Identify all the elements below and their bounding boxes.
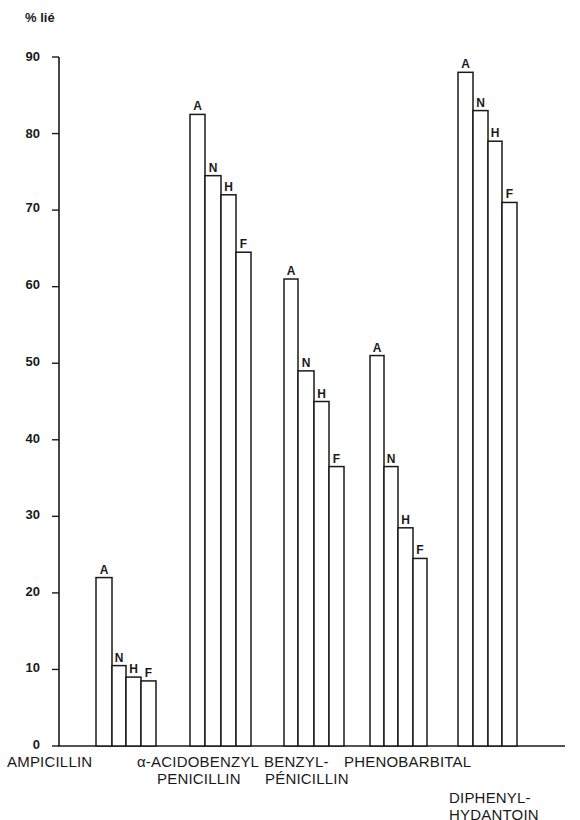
category-label-acidobenzylpenicillin-line1: α-ACIDOBENZYL bbox=[137, 753, 259, 770]
bar-label: A bbox=[287, 264, 296, 278]
bar-label: A bbox=[100, 563, 109, 577]
bar bbox=[314, 402, 329, 747]
bar-label: F bbox=[506, 187, 513, 201]
bar-label: N bbox=[387, 452, 396, 466]
bar-label: A bbox=[193, 99, 202, 113]
bar-label: H bbox=[317, 387, 326, 401]
bar-label: F bbox=[416, 543, 423, 557]
bar bbox=[96, 578, 112, 746]
bar-group: ANHF bbox=[458, 57, 517, 746]
bar-label: N bbox=[302, 356, 311, 370]
category-label-ampicillin: AMPICILLIN bbox=[7, 753, 92, 770]
bar bbox=[488, 141, 502, 746]
category-label-phenobarbital: PHENOBARBITAL bbox=[344, 753, 471, 770]
bar bbox=[458, 72, 473, 746]
bar-group: ANHF bbox=[190, 99, 251, 746]
bar-label: N bbox=[115, 651, 124, 665]
category-label-acidobenzylpenicillin-line2: PENICILLIN bbox=[157, 770, 241, 787]
category-label-benzylpenicillin-line2: PÉNICILLIN bbox=[265, 770, 349, 787]
bar bbox=[329, 467, 344, 746]
category-label-diphenylhydantoin-line1: DIPHENYL- bbox=[449, 789, 531, 806]
bar bbox=[190, 114, 205, 746]
bar bbox=[112, 666, 126, 746]
category-label-diphenylhydantoin-line2: HYDANTOIN bbox=[449, 806, 539, 820]
bar-label: A bbox=[461, 57, 470, 71]
bar-group: ANHF bbox=[370, 341, 427, 746]
bar bbox=[298, 371, 314, 746]
bar-label: A bbox=[373, 341, 382, 355]
bar-group: ANHF bbox=[284, 264, 344, 746]
bar-label: H bbox=[129, 662, 138, 676]
bar bbox=[126, 677, 141, 746]
category-label-benzylpenicillin-line1: BENZYL- bbox=[264, 753, 329, 770]
bar-label: N bbox=[476, 96, 485, 110]
bar bbox=[413, 558, 427, 746]
bar-group: ANHF bbox=[96, 563, 156, 746]
bar bbox=[473, 111, 488, 746]
bar bbox=[236, 252, 251, 746]
bar-label: F bbox=[145, 666, 152, 680]
bar-label: H bbox=[491, 126, 500, 140]
bar bbox=[384, 467, 398, 746]
bar-label: N bbox=[209, 161, 218, 175]
bar-chart: % lié 0 10 20 30 40 50 60 70 80 90 ANHFA… bbox=[0, 0, 580, 820]
bars: ANHFANHFANHFANHFANHF bbox=[96, 57, 517, 746]
bar bbox=[284, 279, 298, 746]
bar bbox=[502, 202, 517, 746]
bar-label: F bbox=[240, 237, 247, 251]
bar-label: H bbox=[224, 180, 233, 194]
bar bbox=[141, 681, 156, 746]
y-ticks bbox=[52, 57, 59, 746]
plot-area: ANHFANHFANHFANHFANHF bbox=[0, 0, 580, 820]
bar bbox=[221, 195, 236, 746]
bar bbox=[205, 176, 221, 746]
bar bbox=[398, 528, 413, 746]
bar bbox=[370, 356, 384, 746]
bar-label: H bbox=[401, 513, 410, 527]
bar-label: F bbox=[333, 452, 340, 466]
